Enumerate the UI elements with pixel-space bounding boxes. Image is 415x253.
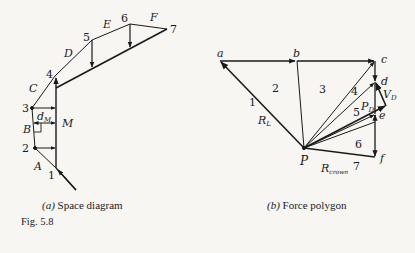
joint-label-4: 4: [46, 68, 53, 81]
caption-space-diagram: (a) Space diagram: [42, 199, 123, 211]
region-label-B: B: [22, 123, 31, 136]
space-diagram: [31, 24, 168, 190]
ray-label-5: 5: [353, 106, 360, 119]
caption-text-b: Force polygon: [283, 199, 347, 211]
region-label-A: A: [33, 160, 42, 173]
figure-canvas: 1 2 3 4 5 6 7 A B C D E F M dM: [0, 0, 415, 253]
caption-force-polygon: (b) Force polygon: [267, 199, 346, 211]
ray-1-RL: [221, 62, 304, 148]
ray-label-2: 2: [272, 82, 279, 95]
ray-label-1: 1: [249, 96, 256, 109]
caption-letter-b: (b): [267, 199, 280, 211]
pole-label-P: P: [299, 154, 309, 168]
caption-letter-a: (a): [42, 199, 55, 211]
arch-outline: [32, 24, 167, 168]
ray-4: [304, 83, 374, 148]
ray-label-6: 6: [355, 138, 362, 151]
left-reaction-label: RL: [257, 114, 271, 128]
figure-number: Fig. 5.8: [21, 216, 53, 227]
pd-label: PD: [360, 100, 374, 114]
caption-text-a: Space diagram: [58, 199, 123, 211]
point-label-d: d: [381, 75, 388, 88]
ray-7-Rcrown: [304, 148, 375, 157]
ray-label-7: 7: [353, 160, 360, 173]
crown-reaction-label: Rcrown: [320, 162, 348, 175]
point-label-f: f: [379, 152, 386, 165]
vd-label: VD: [383, 88, 397, 102]
ray-label-4: 4: [351, 85, 358, 98]
ray-5: [304, 115, 374, 148]
joint-label-6: 6: [121, 12, 128, 25]
point-label-a: a: [217, 47, 224, 60]
joint-label-1: 1: [48, 169, 55, 182]
region-label-C: C: [29, 82, 38, 95]
joint-label-5: 5: [83, 31, 90, 44]
lever-arm-label: dM: [37, 110, 52, 124]
point-label-b: b: [293, 47, 300, 60]
point-label-c: c: [381, 53, 387, 66]
joint-label-7: 7: [170, 23, 177, 36]
region-label-E: E: [102, 18, 111, 31]
ray-label-3: 3: [319, 83, 326, 96]
region-label-D: D: [63, 47, 73, 60]
point-label-e: e: [379, 109, 386, 122]
joint-label-3: 3: [22, 102, 29, 115]
moment-label: M: [61, 117, 74, 130]
region-label-F: F: [149, 11, 158, 24]
joint-label-2: 2: [22, 142, 29, 155]
right-angle-mark: [34, 123, 41, 132]
ray-2: [297, 61, 304, 148]
